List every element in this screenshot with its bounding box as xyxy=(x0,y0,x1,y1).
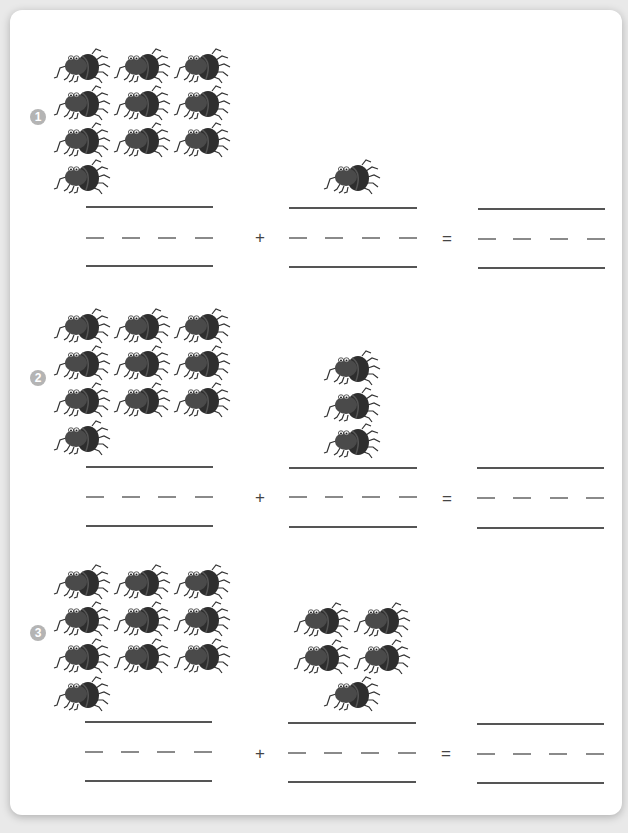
spider-icon xyxy=(352,602,412,638)
writing-mid-dash xyxy=(86,496,104,498)
spider-icon xyxy=(172,308,232,344)
spider-icon xyxy=(112,564,172,600)
writing-mid-dash xyxy=(122,237,140,239)
spider-icon xyxy=(172,601,232,637)
writing-mid-dash xyxy=(513,238,531,240)
writing-mid-dash xyxy=(586,497,604,499)
writing-mid-dash xyxy=(513,497,531,499)
writing-mid-dash xyxy=(157,751,175,753)
writing-top-line xyxy=(289,467,417,469)
spider-icon xyxy=(172,345,232,381)
problem-number-badge: 2 xyxy=(30,370,46,386)
spider-icon xyxy=(322,423,382,459)
spider-icon xyxy=(52,638,112,674)
writing-mid-dash xyxy=(550,497,568,499)
spider-icon xyxy=(322,350,382,386)
spider-icon xyxy=(172,122,232,158)
spider-icon xyxy=(112,308,172,344)
spider-icon xyxy=(112,85,172,121)
spider-icon xyxy=(172,638,232,674)
writing-top-line xyxy=(477,467,604,469)
spider-icon xyxy=(172,382,232,418)
writing-top-line xyxy=(289,207,417,209)
writing-mid-dash xyxy=(194,751,212,753)
writing-top-line xyxy=(85,721,212,723)
spider-icon xyxy=(52,308,112,344)
writing-bottom-line xyxy=(86,265,213,267)
writing-top-line xyxy=(86,206,213,208)
plus-sign: + xyxy=(255,745,265,762)
writing-mid-dash xyxy=(477,753,495,755)
writing-mid-dash xyxy=(399,237,417,239)
writing-bottom-line xyxy=(478,267,605,269)
spider-icon xyxy=(112,601,172,637)
spider-icon xyxy=(172,48,232,84)
writing-bottom-line xyxy=(288,781,416,783)
spider-icon xyxy=(52,48,112,84)
spider-icon xyxy=(52,676,112,712)
writing-mid-dash xyxy=(325,237,343,239)
writing-bottom-line xyxy=(477,527,604,529)
writing-bottom-line xyxy=(477,782,604,784)
writing-mid-dash xyxy=(195,237,213,239)
spider-icon xyxy=(52,382,112,418)
writing-mid-dash xyxy=(477,497,495,499)
writing-mid-dash xyxy=(122,496,140,498)
spider-icon xyxy=(52,122,112,158)
equals-sign: = xyxy=(442,490,452,507)
spider-icon xyxy=(52,601,112,637)
writing-bottom-line xyxy=(289,526,417,528)
writing-mid-dash xyxy=(550,238,568,240)
spider-icon xyxy=(322,387,382,423)
equals-sign: = xyxy=(442,230,452,247)
writing-mid-dash xyxy=(513,753,531,755)
writing-mid-dash xyxy=(361,752,379,754)
writing-mid-dash xyxy=(121,751,139,753)
writing-bottom-line xyxy=(86,525,213,527)
spider-icon xyxy=(112,345,172,381)
spider-icon xyxy=(322,159,382,195)
writing-mid-dash xyxy=(549,753,567,755)
writing-mid-dash xyxy=(325,496,343,498)
spider-icon xyxy=(172,85,232,121)
spider-icon xyxy=(172,564,232,600)
problem-number-badge: 3 xyxy=(30,625,46,641)
spider-icon xyxy=(292,639,352,675)
writing-mid-dash xyxy=(158,237,176,239)
writing-mid-dash xyxy=(478,238,496,240)
plus-sign: + xyxy=(255,489,265,506)
writing-mid-dash xyxy=(586,753,604,755)
writing-mid-dash xyxy=(362,237,380,239)
writing-top-line xyxy=(477,723,604,725)
plus-sign: + xyxy=(255,229,265,246)
writing-mid-dash xyxy=(362,496,380,498)
writing-mid-dash xyxy=(587,238,605,240)
spider-icon xyxy=(322,676,382,712)
spider-icon xyxy=(52,159,112,195)
spider-icon xyxy=(112,382,172,418)
writing-top-line xyxy=(86,466,213,468)
writing-mid-dash xyxy=(158,496,176,498)
writing-mid-dash xyxy=(289,237,307,239)
spider-icon xyxy=(112,48,172,84)
spider-icon xyxy=(52,345,112,381)
writing-top-line xyxy=(288,722,416,724)
spider-icon xyxy=(112,122,172,158)
writing-mid-dash xyxy=(195,496,213,498)
writing-mid-dash xyxy=(399,496,417,498)
writing-mid-dash xyxy=(289,496,307,498)
writing-top-line xyxy=(478,208,605,210)
writing-mid-dash xyxy=(85,751,103,753)
spider-icon xyxy=(352,639,412,675)
writing-mid-dash xyxy=(398,752,416,754)
writing-bottom-line xyxy=(85,780,212,782)
writing-mid-dash xyxy=(324,752,342,754)
writing-mid-dash xyxy=(86,237,104,239)
spider-icon xyxy=(52,85,112,121)
problem-number-badge: 1 xyxy=(30,109,46,125)
equals-sign: = xyxy=(441,745,451,762)
writing-bottom-line xyxy=(289,266,417,268)
spider-icon xyxy=(112,638,172,674)
spider-icon xyxy=(52,420,112,456)
writing-mid-dash xyxy=(288,752,306,754)
